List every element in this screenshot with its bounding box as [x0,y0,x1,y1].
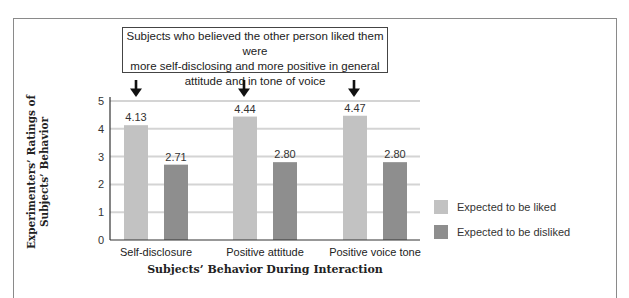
data-label: 4.13 [125,111,146,123]
legend-swatch-liked [434,200,448,214]
bar [383,162,407,240]
data-label: 2.71 [165,151,186,163]
y-tick-label: 0 [98,234,104,246]
y-tick-label: 3 [98,151,104,163]
data-label: 2.80 [384,148,405,160]
bar [124,125,148,240]
y-tick-label: 1 [98,206,104,218]
x-tick-label: Self-disclosure [120,246,192,258]
x-axis-label: Subjects’ Behavior During Interaction [110,263,420,276]
bar [343,116,367,240]
x-tick-label: Positive attitude [226,246,304,258]
y-tick-label: 2 [98,178,104,190]
data-label: 4.44 [234,103,255,115]
data-label: 4.47 [344,102,365,114]
legend-item-liked: Expected to be liked [434,200,556,214]
x-tick-label: Positive voice tone [329,246,421,258]
legend-item-disliked: Expected to be disliked [434,225,570,239]
bar [273,162,297,240]
legend-label: Expected to be liked [457,201,556,213]
y-axis-label: Experimenters’ Ratings of Subjects’ Beha… [25,95,51,249]
legend-swatch-disliked [434,225,448,239]
y-axis-label-line: Subjects’ Behavior [38,95,51,249]
bar [164,165,188,240]
bar [233,117,257,240]
y-tick-label: 5 [98,95,104,107]
y-tick-label: 4 [98,123,104,135]
data-label: 2.80 [274,148,295,160]
legend-label: Expected to be disliked [457,226,570,238]
y-axis-label-line: Experimenters’ Ratings of [25,95,38,249]
